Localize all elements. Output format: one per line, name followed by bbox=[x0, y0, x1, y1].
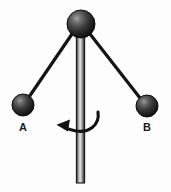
sphere-b-label: B bbox=[143, 121, 151, 133]
sphere-a-label: A bbox=[19, 121, 27, 133]
diagram-canvas: A B bbox=[0, 0, 171, 192]
vertical-rod bbox=[76, 22, 85, 183]
pivot-sphere bbox=[67, 10, 95, 38]
sphere-b bbox=[136, 95, 158, 117]
sphere-a bbox=[12, 94, 34, 116]
physics-diagram-rotating-rod: A B bbox=[0, 0, 171, 192]
